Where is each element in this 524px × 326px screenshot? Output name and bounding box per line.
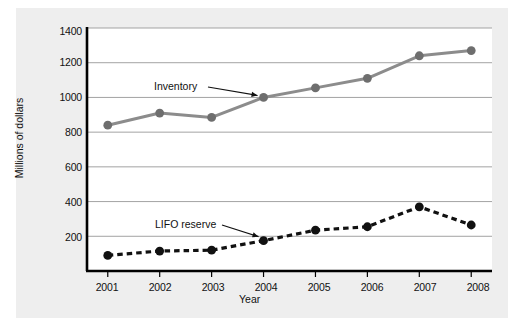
- data-point-lifo-reserve-2005: [311, 226, 320, 235]
- data-point-lifo-reserve-2007: [415, 202, 424, 211]
- data-point-lifo-reserve-2008: [467, 221, 476, 230]
- gridlines-group: [87, 28, 492, 236]
- data-point-inventory-2004: [259, 93, 268, 102]
- annotation-leader-lifo-reserve-arrowhead: [252, 232, 259, 237]
- annotation-leader-inventory: [208, 87, 258, 95]
- axis-group: [86, 27, 492, 277]
- data-point-inventory-2007: [415, 51, 424, 60]
- series-group: [103, 46, 475, 260]
- data-point-lifo-reserve-2003: [207, 246, 216, 255]
- data-point-inventory-2003: [207, 113, 216, 122]
- chart-plot-svg: [0, 0, 524, 326]
- data-point-inventory-2005: [311, 83, 320, 92]
- annotation-leader-inventory-arrowhead: [251, 92, 257, 97]
- data-point-lifo-reserve-2002: [155, 247, 164, 256]
- data-point-inventory-2002: [155, 109, 164, 118]
- data-point-inventory-2006: [363, 74, 372, 83]
- data-point-inventory-2008: [467, 46, 476, 55]
- data-point-lifo-reserve-2006: [363, 222, 372, 231]
- data-point-inventory-2001: [103, 121, 112, 130]
- data-point-lifo-reserve-2004: [259, 236, 268, 245]
- data-point-lifo-reserve-2001: [103, 251, 112, 260]
- chart-figure: 1400 1200 1000 800 600 400 200 2001 2002…: [0, 0, 524, 326]
